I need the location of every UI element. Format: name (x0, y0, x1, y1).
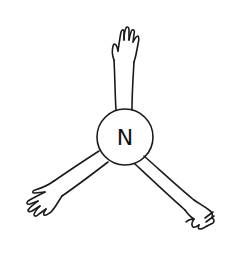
top-hand-icon (112, 27, 138, 62)
bottom-left-hand-icon (27, 181, 62, 216)
bottom-right-arm (135, 156, 214, 229)
atom-symbol: N (97, 112, 153, 162)
top-arm (112, 27, 138, 110)
bottom-left-arm (27, 151, 108, 216)
bottom-right-hand-icon (185, 200, 214, 229)
